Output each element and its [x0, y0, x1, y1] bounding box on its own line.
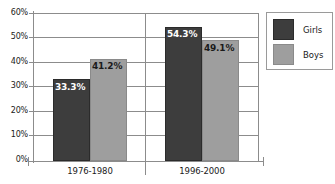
bar-boys-1996-2000[interactable] — [202, 40, 239, 161]
bar-value-label-girls-1996-2000: 54.3% — [167, 29, 197, 39]
legend-swatch-icon-boys — [273, 44, 294, 65]
y-axis-tick-label-60: 60% — [0, 8, 28, 18]
bar-girls-1996-2000[interactable] — [165, 27, 202, 161]
x-axis-category-label-1976-1980: 1976-1980 — [53, 166, 127, 176]
legend-label-boys: Boys — [303, 50, 324, 60]
y-axis-tick-label-50: 50% — [0, 32, 28, 42]
y-axis-tick-label-20: 20% — [0, 106, 28, 116]
x-axis-line — [28, 161, 264, 162]
bar-chart: 60% 50% 40% 30% 20% 10% 0% 33.3% 41.2% 5… — [0, 0, 335, 184]
x-axis-tick-mark-right — [263, 157, 264, 166]
plot-right-edge — [258, 13, 259, 161]
legend-item-girls[interactable]: Girls — [273, 19, 322, 40]
y-axis-tick-label-30: 30% — [0, 81, 28, 91]
x-axis-tick-mark-left — [28, 157, 29, 166]
y-axis-tick-label-40: 40% — [0, 57, 28, 67]
bar-value-label-boys-1996-2000: 49.1% — [204, 43, 234, 53]
legend-label-girls: Girls — [303, 25, 322, 35]
bar-boys-1976-1980[interactable] — [90, 59, 127, 161]
y-axis-tick-label-0: 0% — [0, 155, 28, 165]
bar-value-label-boys-1976-1980: 41.2% — [92, 61, 122, 71]
x-axis-category-label-1996-2000: 1996-2000 — [165, 166, 239, 176]
legend-item-boys[interactable]: Boys — [273, 44, 324, 65]
bar-value-label-girls-1976-1980: 33.3% — [55, 82, 85, 92]
legend: Girls Boys — [266, 12, 333, 70]
y-axis-tick-label-10: 10% — [0, 130, 28, 140]
legend-swatch-icon-girls — [273, 19, 294, 40]
